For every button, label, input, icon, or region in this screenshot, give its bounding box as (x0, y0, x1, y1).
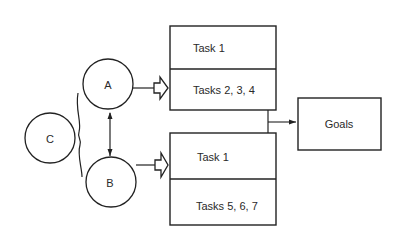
circle-c-label: C (46, 133, 54, 145)
top-box-row-1: Task 1 (193, 42, 225, 54)
top-box-row-2: Tasks 2, 3, 4 (193, 84, 255, 96)
bottom-box-row-2: Tasks 5, 6, 7 (196, 200, 258, 212)
circle-a-label: A (104, 79, 111, 91)
circle-b-label: B (106, 177, 113, 189)
task-box-top (170, 26, 276, 110)
hollow-arrow-icon (155, 153, 168, 177)
brace-icon (77, 93, 82, 177)
bottom-box-row-1: Task 1 (197, 151, 229, 163)
hollow-arrow-icon (154, 77, 168, 99)
goals-label: Goals (325, 118, 354, 130)
